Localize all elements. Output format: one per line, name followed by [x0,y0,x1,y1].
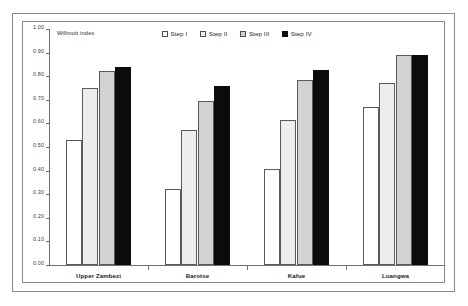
x-tick-mark [247,266,248,270]
bar-kafue-step-1 [264,169,280,265]
y-tick-label: 0.50 [0,143,44,148]
y-tick-label: 0.00 [0,261,44,266]
bar-upper-zambezi-step-1 [66,140,82,265]
bar-kafue-step-3 [297,80,313,265]
bar-upper-zambezi-step-3 [99,71,115,265]
y-tick-label-wrap: 0.60 [0,119,44,127]
y-tick-label-wrap: 0.30 [0,190,44,198]
y-tick-label-wrap: 0.10 [0,237,44,245]
y-tick-label-wrap: 0.40 [0,167,44,175]
y-tick-label: 0.60 [0,119,44,124]
plot-area [49,29,445,265]
y-tick-label-wrap: 0.80 [0,72,44,80]
bar-luangwa-step-4 [412,55,428,265]
bar-upper-zambezi-step-2 [82,88,98,265]
y-tick-label: 0.80 [0,72,44,77]
y-tick-label-wrap: 0.00 [0,261,44,269]
y-tick-mark [46,265,50,266]
x-tick-mark [346,266,347,270]
bar-kafue-step-4 [313,70,329,265]
bar-upper-zambezi-step-4 [115,67,131,265]
y-tick-label: 0.20 [0,214,44,219]
bar-kafue-step-2 [280,120,296,265]
y-tick-label: 0.70 [0,96,44,101]
bar-luangwa-step-3 [396,55,412,265]
y-tick-label: 0.10 [0,237,44,242]
category-label-2: Barotse [148,273,247,279]
category-label-1: Upper Zambezi [49,273,148,279]
y-tick-label-wrap: 0.50 [0,143,44,151]
y-tick-label-wrap: 1.00 [0,25,44,33]
bar-barotse-step-1 [165,189,181,265]
chart-figure: Willmott index Step IStep IIStep IIIStep… [0,0,468,306]
bar-luangwa-step-2 [379,83,395,265]
y-tick-label: 0.40 [0,167,44,172]
y-tick-label-wrap: 0.90 [0,49,44,57]
x-tick-mark [148,266,149,270]
y-tick-label: 0.90 [0,49,44,54]
bar-luangwa-step-1 [363,107,379,265]
bar-barotse-step-4 [214,86,230,265]
y-tick-label: 0.30 [0,190,44,195]
bar-barotse-step-2 [181,130,197,265]
y-tick-label: 1.00 [0,25,44,30]
y-tick-label-wrap: 0.70 [0,96,44,104]
category-label-4: Luangwa [346,273,445,279]
bar-barotse-step-3 [198,101,214,265]
y-tick-label-wrap: 0.20 [0,214,44,222]
category-label-3: Kafue [247,273,346,279]
